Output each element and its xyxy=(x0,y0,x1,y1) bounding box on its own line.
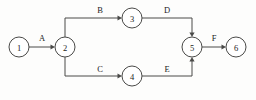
edge-label-B: B xyxy=(97,5,103,15)
network-diagram-svg: 123456 ABCDEF xyxy=(0,0,256,100)
edge-label-E: E xyxy=(164,64,169,74)
arrow-head-icon-D xyxy=(189,33,194,38)
node-label-2: 2 xyxy=(63,43,67,53)
node-label-1: 1 xyxy=(17,43,21,53)
node-1: 1 xyxy=(9,37,29,57)
edge-line-D xyxy=(142,18,192,35)
edge-B xyxy=(65,15,122,37)
network-diagram: 123456 ABCDEF xyxy=(0,0,256,100)
node-label-3: 3 xyxy=(130,14,134,24)
arrow-head-icon-A xyxy=(51,44,56,49)
arrow-head-icon-C xyxy=(118,73,123,78)
node-label-6: 6 xyxy=(234,43,238,53)
edge-label-D: D xyxy=(164,5,170,15)
node-2: 2 xyxy=(55,37,75,57)
edge-A xyxy=(29,44,55,49)
arrow-head-icon-F xyxy=(222,44,227,49)
edge-D xyxy=(142,18,195,37)
edge-line-C xyxy=(65,57,120,76)
edge-line-B xyxy=(65,18,120,37)
edge-label-C: C xyxy=(97,64,103,74)
node-5: 5 xyxy=(182,37,202,57)
edge-label-F: F xyxy=(212,33,217,43)
edge-F xyxy=(202,44,226,49)
node-label-5: 5 xyxy=(190,43,194,53)
arrow-head-icon-E xyxy=(189,57,194,62)
edge-C xyxy=(65,57,122,79)
node-6: 6 xyxy=(226,37,246,57)
edge-label-A: A xyxy=(39,33,46,43)
arrow-head-icon-B xyxy=(118,15,123,20)
node-3: 3 xyxy=(122,8,142,28)
node-4: 4 xyxy=(122,66,142,86)
